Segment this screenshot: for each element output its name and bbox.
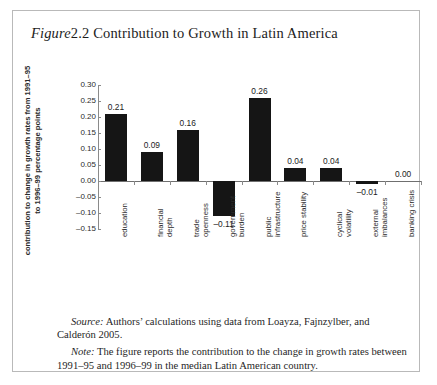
bar-value-label: 0.21 (94, 102, 138, 112)
x-category-label: education (120, 145, 129, 237)
figure-frame: Figure2.2 Contribution to Growth in Lati… (12, 10, 420, 372)
y-tick-mark (98, 149, 101, 150)
x-tick-mark (313, 181, 314, 185)
figure-number-label: Figure (31, 25, 71, 41)
y-tick-label: –0.10 (62, 209, 96, 217)
y-tick-mark (98, 213, 101, 214)
bar-chart: contribution to change in growth rates f… (13, 63, 419, 303)
x-tick-mark (98, 181, 99, 185)
x-category-label: cyclical volatility (335, 145, 353, 237)
y-tick-mark (98, 165, 101, 166)
y-tick-label: 0.15 (62, 129, 96, 137)
plot-area: 0.300.250.200.150.100.050.00–0.05–0.10–0… (98, 85, 421, 229)
bar-value-label: 0.16 (166, 118, 210, 128)
figure-title-text: 2.2 Contribution to Growth in Latin Amer… (71, 25, 338, 41)
x-tick-mark (134, 181, 135, 185)
x-category-label: external imbalances (371, 145, 389, 237)
note-text: The figure reports the contribution to t… (57, 346, 407, 370)
y-tick-label: 0.25 (62, 97, 96, 105)
y-tick-mark (98, 133, 101, 134)
note-label: Note: (71, 346, 95, 357)
y-tick-label: 0.00 (62, 177, 96, 185)
y-tick-label: 0.30 (62, 81, 96, 89)
x-category-label: financial depth (156, 145, 174, 237)
y-tick-label: 0.10 (62, 145, 96, 153)
x-category-label: banking crisis (407, 145, 416, 237)
x-category-label: price stability (299, 145, 308, 237)
y-tick-label: –0.15 (62, 225, 96, 233)
x-tick-mark (421, 181, 422, 185)
y-tick-mark (98, 117, 101, 118)
x-category-label: public infrastructure (264, 145, 282, 237)
x-category-label: trade openness (192, 145, 210, 237)
bar-value-label: 0.26 (238, 86, 282, 96)
source-label: Source: (71, 316, 104, 327)
figure-title: Figure2.2 Contribution to Growth in Lati… (31, 25, 338, 42)
source-text: Authors’ calculations using data from Lo… (57, 316, 369, 340)
figure-footnotes: Source: Authors’ calculations using data… (57, 315, 407, 376)
y-tick-label: –0.05 (62, 193, 96, 201)
y-axis-title: contribution to change in growth rates f… (23, 66, 42, 256)
y-tick-mark (98, 197, 101, 198)
y-tick-label: 0.05 (62, 161, 96, 169)
figure-note: Note: The figure reports the contributio… (57, 345, 407, 371)
x-category-label: government burden (228, 145, 246, 237)
y-tick-mark (98, 85, 101, 86)
y-tick-label: 0.20 (62, 113, 96, 121)
source-note: Source: Authors’ calculations using data… (57, 315, 407, 341)
y-tick-mark (98, 229, 101, 230)
